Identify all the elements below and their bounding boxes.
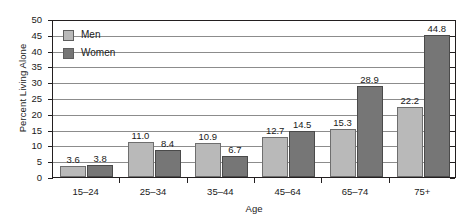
legend-label-men: Men xyxy=(81,29,100,41)
bar-value-label: 44.8 xyxy=(417,24,457,34)
bar-women-45–64 xyxy=(289,131,315,177)
bar-men-65–74 xyxy=(330,129,356,177)
legend-swatch-men-icon xyxy=(63,30,74,41)
y-axis-tick-label: 25 xyxy=(0,94,42,104)
x-axis-tick xyxy=(321,178,322,183)
y-axis-tick-label: 40 xyxy=(0,47,42,57)
bar-value-label: 3.8 xyxy=(80,154,120,164)
x-axis-category-label: 65–74 xyxy=(321,186,388,198)
y-axis-tick-label: 35 xyxy=(0,62,42,72)
bar-men-15–24 xyxy=(60,166,86,177)
y-axis-tick-label: 20 xyxy=(0,110,42,120)
y-axis-tick-label: 45 xyxy=(0,31,42,41)
bar-women-35–44 xyxy=(222,156,248,177)
y-axis-tick-label: 30 xyxy=(0,78,42,88)
bar-women-75+ xyxy=(424,35,450,177)
x-axis-category-label: 15–24 xyxy=(52,186,119,198)
x-axis-tick xyxy=(254,178,255,183)
bar-value-label: 8.4 xyxy=(148,139,188,149)
legend-item-women: Women xyxy=(63,44,155,62)
bar-value-label: 6.7 xyxy=(215,145,255,155)
x-axis-ticks xyxy=(52,178,456,184)
legend-swatch-women-icon xyxy=(63,48,74,59)
bar-women-65–74 xyxy=(357,86,383,177)
y-axis-tick-label: 50 xyxy=(0,15,42,25)
x-axis-category-label: 25–34 xyxy=(119,186,186,198)
x-axis-category-label: 35–44 xyxy=(187,186,254,198)
x-axis-tick xyxy=(119,178,120,183)
x-axis-category-label: 75+ xyxy=(389,186,456,198)
x-axis-tick xyxy=(187,178,188,183)
legend-label-women: Women xyxy=(81,47,115,59)
bar-value-label: 28.9 xyxy=(350,75,390,85)
plot-area: 3.63.811.08.410.96.712.714.515.328.922.2… xyxy=(52,20,456,178)
y-axis-tick-label: 5 xyxy=(0,157,42,167)
bar-women-25–34 xyxy=(155,150,181,177)
bar-value-label: 14.5 xyxy=(282,120,322,130)
y-axis-tick-label: 15 xyxy=(0,126,42,136)
x-axis-category-label: 45–64 xyxy=(254,186,321,198)
x-axis-tick xyxy=(389,178,390,183)
x-axis-category-labels: 15–2425–3435–4445–6465–7475+ xyxy=(52,186,456,200)
bar-women-15–24 xyxy=(87,165,113,177)
bar-men-45–64 xyxy=(262,137,288,177)
y-axis-tick-label: 0 xyxy=(0,173,42,183)
bar-chart: Percent Living Alone 0510152025303540455… xyxy=(0,0,471,221)
bar-value-label: 10.9 xyxy=(188,132,228,142)
legend-item-men: Men xyxy=(63,26,155,44)
legend: Men Women xyxy=(63,26,155,62)
x-axis-title: Age xyxy=(52,203,456,215)
bar-men-75+ xyxy=(397,107,423,177)
y-axis-tick-label: 10 xyxy=(0,141,42,151)
